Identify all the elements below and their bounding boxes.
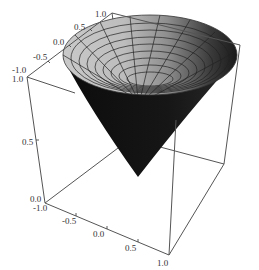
top-axis-label: 0.0 xyxy=(53,37,65,47)
bottom-axis-labels: -1.0 -0.5 0.0 0.5 1.0 xyxy=(33,203,169,268)
bottom-axis-label: 1.0 xyxy=(157,258,169,268)
vertical-axis-label: 1.0 xyxy=(12,74,24,84)
bottom-axis-label: -0.5 xyxy=(62,216,77,226)
vertical-axis-labels: 1.0 0.5 0.0 xyxy=(12,74,42,204)
top-axis-label: 1.0 xyxy=(95,9,107,19)
top-axis-label: -0.5 xyxy=(33,52,48,62)
bottom-axis-label: -1.0 xyxy=(33,203,48,213)
bottom-axis-label: 0.0 xyxy=(93,229,105,239)
vertical-axis-label: 0.5 xyxy=(22,137,34,147)
cone-3d-plot: -1.0 -0.5 0.0 0.5 1.0 1.0 0.5 0.0 -1.0 -… xyxy=(0,0,259,270)
bottom-axis-label: 0.5 xyxy=(125,243,137,253)
top-axis-label: 0.5 xyxy=(74,22,86,32)
